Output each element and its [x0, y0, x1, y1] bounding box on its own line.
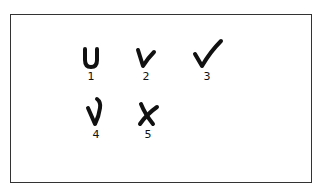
mark-3: 3 [187, 38, 227, 83]
check-hook-icon [84, 96, 108, 128]
mark-2-label: 2 [126, 71, 166, 83]
mark-3-label: 3 [187, 71, 227, 83]
u-shape-icon [81, 46, 101, 70]
mark-5: 5 [128, 100, 168, 141]
x-mark-icon [135, 100, 161, 128]
figure-frame [10, 14, 312, 183]
v-check-icon [134, 46, 158, 70]
mark-1: 1 [71, 46, 111, 83]
mark-2: 2 [126, 46, 166, 83]
check-mark-icon [190, 38, 224, 70]
mark-4-label: 4 [76, 129, 116, 141]
mark-5-label: 5 [128, 129, 168, 141]
mark-1-label: 1 [71, 71, 111, 83]
mark-4: 4 [76, 96, 116, 141]
